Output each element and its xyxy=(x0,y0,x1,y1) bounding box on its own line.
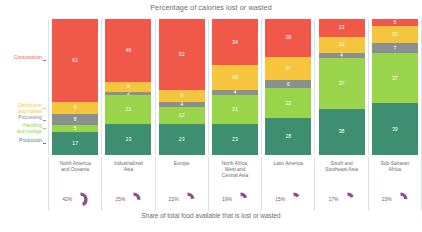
bar-column: 52941223 xyxy=(155,19,208,155)
footer-caption: Share of total food available that is lo… xyxy=(0,212,422,219)
region-label: Sub-Saharan Africa xyxy=(368,157,422,187)
bar-segment[interactable]: 13 xyxy=(319,19,365,37)
bar-segment[interactable]: 38 xyxy=(319,109,365,155)
bar-segment[interactable]: 17 xyxy=(52,132,98,155)
share-cell: 22% xyxy=(155,187,208,211)
stage-tick xyxy=(43,143,46,144)
stacked-bar[interactable]: 6198517 xyxy=(52,19,98,155)
stage-label-consumption: Consumption xyxy=(14,55,42,61)
region-label: Europe xyxy=(155,157,208,187)
bar-segment[interactable]: 23 xyxy=(159,124,205,155)
share-donut-icon xyxy=(180,192,195,207)
bar-segment[interactable]: 39 xyxy=(372,103,418,155)
share-cell: 15% xyxy=(261,187,314,211)
share-percent-label: 23% xyxy=(382,196,392,202)
share-donut-icon xyxy=(73,192,88,207)
region-label: North Africa, West and Central Asia xyxy=(208,157,261,187)
share-donut-icon xyxy=(233,192,248,207)
share-donut-icon xyxy=(340,192,355,207)
share-percent-label: 17% xyxy=(329,196,339,202)
stage-tick xyxy=(43,128,46,129)
share-donut-icon xyxy=(126,192,141,207)
region-label: North America and Oceania xyxy=(48,157,101,187)
bar-segment[interactable]: 5 xyxy=(52,125,98,132)
bar-segment[interactable]: 12 xyxy=(159,107,205,123)
region-labels-row: North America and OceaniaIndustrialized … xyxy=(48,157,422,187)
stage-label-production: Production xyxy=(19,138,42,144)
share-percent-label: 15% xyxy=(275,196,285,202)
share-cell: 23% xyxy=(368,187,422,211)
bar-segment[interactable]: 18 xyxy=(212,65,258,89)
bar-segment[interactable]: 23 xyxy=(105,124,151,155)
share-percent-label: 19% xyxy=(222,196,232,202)
stacked-bar[interactable]: 131243738 xyxy=(319,19,365,155)
share-cell: 17% xyxy=(314,187,367,211)
stage-label-processing: Processing xyxy=(18,115,42,121)
bar-segment[interactable]: 17 xyxy=(265,57,311,80)
bar-column: 131243738 xyxy=(314,19,367,155)
stage-tick xyxy=(43,108,46,109)
share-cell: 42% xyxy=(48,187,101,211)
bar-segment[interactable]: 37 xyxy=(372,53,418,103)
stacked-bar[interactable]: 341842123 xyxy=(212,19,258,155)
bar-segment[interactable]: 7 xyxy=(372,43,418,53)
bar-column: 6198517 xyxy=(48,19,101,155)
bar-segment[interactable]: 28 xyxy=(265,19,311,57)
bar-segment[interactable]: 8 xyxy=(105,82,151,93)
share-cell: 19% xyxy=(208,187,261,211)
region-label: South and Southeast Asia xyxy=(314,157,367,187)
region-label: Industrialized Asia xyxy=(101,157,154,187)
stage-label-handling-and-storage: Handling and storage xyxy=(17,123,42,135)
share-donut-icon xyxy=(393,192,408,207)
bar-segment[interactable]: 34 xyxy=(212,19,258,65)
bar-segment[interactable]: 12 xyxy=(319,37,365,53)
bar-segment[interactable]: 52 xyxy=(159,19,205,90)
stage-tick xyxy=(43,120,46,121)
share-donuts-row: 42%25%22%19%15%17%23% xyxy=(48,187,422,211)
bar-segment[interactable]: 6 xyxy=(265,80,311,88)
bar-segment[interactable]: 28 xyxy=(265,118,311,155)
bar-segment[interactable]: 23 xyxy=(212,124,258,155)
share-cell: 25% xyxy=(101,187,154,211)
stage-label-distribution-and-market: Distribution and market xyxy=(18,103,42,115)
bar-segment[interactable]: 13 xyxy=(372,26,418,44)
bar-segment[interactable]: 9 xyxy=(52,102,98,114)
share-percent-label: 22% xyxy=(169,196,179,202)
bar-segment[interactable]: 5 xyxy=(372,19,418,26)
stacked-bar[interactable]: 52941223 xyxy=(159,19,205,155)
share-percent-label: 42% xyxy=(62,196,72,202)
bar-segment[interactable]: 46 xyxy=(105,19,151,82)
bar-segment[interactable]: 21 xyxy=(212,95,258,124)
page-title: Percentage of calories lost or wasted xyxy=(0,3,422,12)
stacked-bar[interactable]: 51373739 xyxy=(372,19,418,155)
region-label: Latin America xyxy=(261,157,314,187)
share-percent-label: 25% xyxy=(115,196,125,202)
bar-segment[interactable]: 21 xyxy=(105,95,151,124)
bar-column: 51373739 xyxy=(368,19,422,155)
stacked-bar[interactable]: 46822123 xyxy=(105,19,151,155)
bar-segment[interactable]: 37 xyxy=(319,58,365,108)
bar-segment[interactable]: 22 xyxy=(265,88,311,118)
stacked-bar[interactable]: 281762228 xyxy=(265,19,311,155)
bar-segment[interactable]: 8 xyxy=(52,114,98,125)
bar-column: 341842123 xyxy=(208,19,261,155)
bar-column: 281762228 xyxy=(261,19,314,155)
stage-axis-labels: ConsumptionDistribution and marketProces… xyxy=(0,19,46,155)
bar-column: 46822123 xyxy=(101,19,154,155)
stacked-bar-plot: 6198517468221235294122334184212328176222… xyxy=(48,19,422,155)
stage-tick xyxy=(43,60,46,61)
bar-segment[interactable]: 9 xyxy=(159,90,205,102)
bar-segment[interactable]: 61 xyxy=(52,19,98,102)
share-donut-icon xyxy=(286,192,301,207)
